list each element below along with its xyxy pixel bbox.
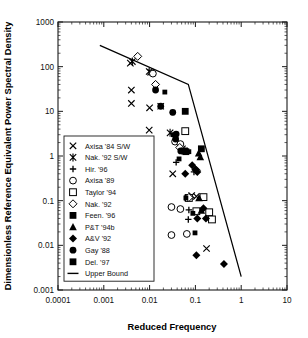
legend-label: Hir. '96 — [85, 165, 107, 174]
data-point — [183, 196, 188, 201]
data-point — [171, 132, 176, 137]
data-point — [182, 128, 189, 135]
square-filled-marker-icon — [70, 212, 77, 219]
data-point — [183, 231, 190, 238]
legend-label: P&T '94b — [85, 223, 115, 232]
scatter-plot-svg: 0.00010.0010.010.11100.0010.010.11101001… — [0, 0, 308, 338]
data-point — [149, 70, 156, 77]
legend-label: Axisa '89 — [85, 176, 114, 185]
legend-label: Taylor '94 — [85, 188, 116, 197]
y-tick-label: 1000 — [36, 18, 55, 27]
data-point — [182, 108, 189, 115]
legend-label: Gay '88 — [85, 246, 110, 255]
y-tick-label: 0.1 — [43, 197, 55, 206]
data-point — [152, 87, 159, 94]
y-tick-label: 1 — [49, 152, 54, 161]
data-point — [168, 232, 175, 239]
data-point — [177, 157, 182, 162]
legend-label: Del. '97 — [85, 258, 110, 267]
legend-item[interactable]: Taylor '94 — [70, 188, 116, 197]
x-tick-label: 1 — [239, 296, 244, 305]
y-tick-label: 10 — [45, 107, 55, 116]
circle-open-marker-icon — [70, 177, 77, 184]
chart-figure: 0.00010.0010.010.11100.0010.010.11101001… — [0, 0, 308, 338]
legend-label: Upper Bound — [85, 269, 128, 278]
y-tick-label: 0.001 — [34, 286, 55, 295]
data-point — [162, 90, 167, 95]
data-point — [190, 211, 195, 216]
legend-label: Nak. '92 — [85, 200, 112, 209]
legend-label: A&V '92 — [85, 234, 111, 243]
data-point — [193, 230, 198, 235]
data-point — [177, 148, 184, 155]
legend-label: Feen. '96 — [85, 211, 115, 220]
legend-label: Nak. '92 S/W — [85, 153, 127, 162]
y-axis-title: Dimensionless Reference Equivalent Power… — [3, 21, 13, 291]
data-point — [177, 206, 184, 213]
circle-filled-marker-icon — [70, 247, 77, 254]
data-point — [157, 103, 164, 110]
legend-item[interactable]: Del. '97 — [70, 258, 110, 267]
legend-label: Axisa '84 S/W — [85, 142, 130, 151]
data-point — [168, 204, 175, 211]
square-filled-marker-icon — [70, 258, 77, 265]
data-point — [170, 110, 175, 115]
x-axis-title: Reduced Frequency — [128, 322, 218, 332]
x-tick-label: 0.01 — [142, 296, 158, 305]
data-point — [206, 209, 213, 216]
x-tick-label: 0.001 — [94, 296, 115, 305]
x-tick-label: 10 — [282, 296, 292, 305]
y-tick-label: 100 — [40, 63, 54, 72]
y-tick-label: 0.01 — [38, 241, 54, 250]
data-point — [186, 149, 191, 154]
square-open-marker-icon — [70, 189, 77, 196]
data-point — [209, 216, 216, 223]
chart-legend: Axisa '84 S/WNak. '92 S/WHir. '96Axisa '… — [64, 136, 154, 281]
x-tick-label: 0.1 — [190, 296, 202, 305]
x-tick-label: 0.0001 — [45, 296, 70, 305]
